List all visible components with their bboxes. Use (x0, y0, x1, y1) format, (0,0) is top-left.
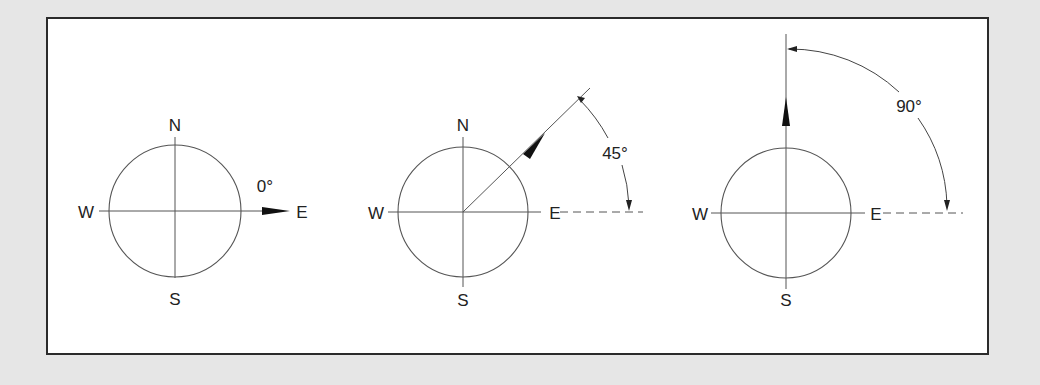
compass-90deg: S E W 90° (692, 34, 963, 310)
east-label: E (549, 204, 560, 223)
north-label: N (457, 116, 469, 135)
arc-arrowhead-icon (787, 46, 797, 52)
north-label: N (169, 116, 181, 135)
compass-0deg: N S E W 0° (78, 116, 308, 309)
west-label: W (78, 203, 94, 222)
angle-arc-lower (918, 118, 947, 205)
east-label: E (870, 205, 881, 224)
angle-arc-upper (789, 49, 899, 92)
direction-arrow-icon (262, 207, 290, 215)
south-label: S (169, 290, 180, 309)
compass-diagram: N S E W 0° N S E W 45° S (0, 0, 1040, 385)
angle-label: 45° (602, 144, 628, 163)
direction-arrow-icon (782, 97, 790, 126)
angle-label: 90° (896, 97, 922, 116)
angle-arc-lower (622, 165, 629, 205)
compass-45deg: N S E W 45° (368, 88, 643, 310)
west-label: W (368, 204, 384, 223)
west-label: W (692, 205, 708, 224)
angle-label: 0° (257, 177, 273, 196)
south-label: S (457, 291, 468, 310)
arc-arrowhead-icon (626, 200, 632, 211)
angle-arc-upper (580, 100, 608, 138)
south-label: S (780, 291, 791, 310)
arc-arrowhead-icon (944, 200, 950, 211)
east-label: E (296, 203, 307, 222)
direction-arrow-icon (523, 133, 545, 159)
